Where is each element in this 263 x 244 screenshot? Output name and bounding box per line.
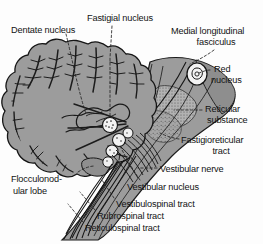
label-vestibular-nucleus: Vestibular nucleus xyxy=(127,182,199,193)
label-flocculonodular-lobe-2: ular lobe xyxy=(13,186,47,197)
label-fastigioreticular: Fastigioreticular xyxy=(181,135,243,146)
label-vestibulospinal-tract: Vestibulospinal tract xyxy=(116,199,195,210)
label-red: Red xyxy=(214,64,230,75)
label-vestibular-nerve: Vestibular nerve xyxy=(160,164,223,175)
label-reticular-substance: substance xyxy=(207,115,248,126)
label-dentate-nucleus: Dentate nucleus xyxy=(11,25,75,36)
red-nucleus-marker xyxy=(187,63,207,85)
label-rubrospinal-tract: Rubrospinal tract xyxy=(97,211,164,222)
label-reticular: Reticular xyxy=(205,104,240,115)
label-fastigial-nucleus: Fastigial nucleus xyxy=(87,13,153,24)
label-medial-longitudinal: Medial longitudinal xyxy=(171,26,244,37)
label-reticulospinal-tract: Reticulospinal tract xyxy=(85,223,160,234)
label-fasciculus: fasciculus xyxy=(171,37,261,48)
anatomical-figure: Dentate nucleus Fastigial nucleus Medial… xyxy=(0,0,263,244)
label-fastigioreticular-tract: tract xyxy=(181,146,261,157)
label-red-nucleus: nucleus xyxy=(211,75,242,86)
fastigial-nucleus-marker xyxy=(103,118,118,133)
label-flocculonodular-lobe-1: Flocculonod- xyxy=(11,174,62,185)
